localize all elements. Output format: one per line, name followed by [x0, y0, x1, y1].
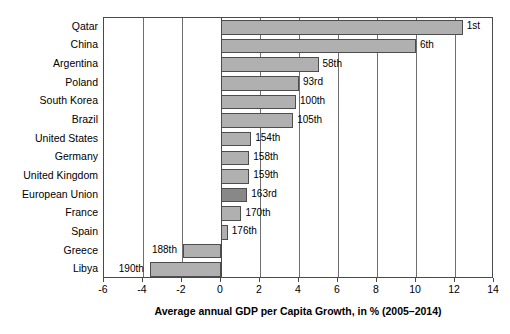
category-label: United Kingdom	[0, 170, 98, 181]
category-label: France	[0, 207, 98, 218]
bar	[221, 206, 241, 221]
category-label: Greece	[0, 245, 98, 256]
bar	[221, 76, 299, 91]
bar	[221, 225, 228, 240]
axis-tick-label: -2	[166, 284, 196, 295]
rank-label: 58th	[323, 59, 342, 69]
gdp-per-capita-growth-bar-chart: QatarChinaArgentinaPolandSouth KoreaBraz…	[0, 0, 510, 334]
axis-tick-label: 6	[322, 284, 352, 295]
axis-tick-label: 12	[439, 284, 469, 295]
axis-tick	[220, 278, 221, 282]
rank-label: 158th	[253, 152, 278, 162]
bar	[221, 39, 416, 54]
axis-tick-label: 4	[283, 284, 313, 295]
gridline	[377, 18, 378, 277]
rank-label: 1st	[467, 21, 480, 31]
axis-tick-label: 0	[205, 284, 235, 295]
bar	[221, 57, 319, 72]
gridline	[143, 18, 144, 277]
category-label: South Korea	[0, 95, 98, 106]
axis-tick	[337, 278, 338, 282]
bar	[221, 113, 293, 128]
category-label: Germany	[0, 151, 98, 162]
bar	[221, 188, 247, 203]
axis-tick	[103, 278, 104, 282]
rank-label: 170th	[245, 208, 270, 218]
axis-tick-label: 14	[478, 284, 508, 295]
category-label: United States	[0, 133, 98, 144]
bar	[183, 244, 221, 259]
category-label: European Union	[0, 189, 98, 200]
axis-tick-label: -6	[88, 284, 118, 295]
rank-label: 176th	[232, 226, 257, 236]
axis-tick	[259, 278, 260, 282]
plot-area	[103, 17, 493, 278]
rank-label: 100th	[300, 96, 325, 106]
axis-tick	[415, 278, 416, 282]
category-label: Argentina	[0, 58, 98, 69]
x-axis-title: Average annual GDP per Capita Growth, in…	[103, 305, 493, 317]
bar	[221, 151, 249, 166]
bar	[221, 132, 251, 147]
bar	[221, 95, 296, 110]
gridline	[455, 18, 456, 277]
axis-tick-label: 10	[400, 284, 430, 295]
category-label: Brazil	[0, 114, 98, 125]
category-label: Qatar	[0, 21, 98, 32]
axis-tick-label: 2	[244, 284, 274, 295]
axis-tick-label: -4	[127, 284, 157, 295]
axis-tick-label: 8	[361, 284, 391, 295]
gridline	[416, 18, 417, 277]
category-axis-labels: QatarChinaArgentinaPolandSouth KoreaBraz…	[0, 17, 98, 278]
rank-label: 6th	[420, 40, 434, 50]
rank-label: 159th	[253, 170, 278, 180]
rank-label: 154th	[255, 133, 280, 143]
rank-label: 93rd	[303, 77, 323, 87]
axis-tick	[142, 278, 143, 282]
axis-tick	[181, 278, 182, 282]
rank-label: 105th	[297, 115, 322, 125]
category-label: Poland	[0, 77, 98, 88]
axis-tick	[454, 278, 455, 282]
axis-tick	[493, 278, 494, 282]
gridline	[338, 18, 339, 277]
category-label: China	[0, 39, 98, 50]
axis-tick	[376, 278, 377, 282]
bar	[221, 169, 249, 184]
rank-label: 188th	[152, 245, 177, 255]
bar	[150, 262, 221, 277]
gridline	[182, 18, 183, 277]
bar	[221, 20, 463, 35]
rank-label: 163rd	[251, 189, 277, 199]
category-label: Libya	[0, 263, 98, 274]
category-label: Spain	[0, 226, 98, 237]
rank-label: 190th	[119, 264, 144, 274]
axis-tick	[298, 278, 299, 282]
